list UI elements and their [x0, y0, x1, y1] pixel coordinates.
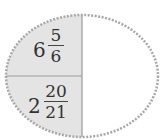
- blank-right-half: [82, 0, 167, 140]
- whole-number: 6: [33, 38, 46, 62]
- whole-number: 2: [28, 94, 41, 118]
- fraction: 5 6: [48, 26, 64, 65]
- shaded-left-half: [0, 0, 82, 140]
- ellipse-diagram: [0, 0, 167, 140]
- numerator: 5: [51, 26, 62, 44]
- numerator: 20: [45, 82, 67, 100]
- denominator: 6: [51, 47, 62, 65]
- denominator: 21: [45, 103, 67, 121]
- fraction: 20 21: [44, 82, 68, 121]
